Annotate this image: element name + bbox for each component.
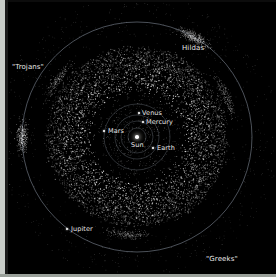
asteroid-point-inner-scatter bbox=[124, 135, 125, 136]
asteroid-point-main-belt bbox=[96, 59, 97, 60]
asteroid-point-main-belt bbox=[194, 67, 195, 68]
asteroid-point-outer-halo bbox=[12, 194, 13, 195]
asteroid-point-main-belt bbox=[174, 167, 175, 168]
asteroid-point-hildas bbox=[56, 88, 57, 89]
asteroid-point-main-belt bbox=[201, 190, 202, 191]
asteroid-point-outer-halo bbox=[75, 22, 76, 23]
asteroid-point-main-belt bbox=[158, 187, 159, 188]
asteroid-point-main-belt bbox=[148, 216, 149, 217]
asteroid-point-main-belt bbox=[90, 177, 91, 178]
asteroid-point-main-belt bbox=[71, 79, 72, 80]
asteroid-point-main-belt bbox=[129, 208, 130, 209]
asteroid-point-main-belt bbox=[104, 203, 105, 204]
asteroid-point-main-belt bbox=[91, 60, 92, 61]
asteroid-point-trojans bbox=[19, 140, 20, 141]
asteroid-point-outer-halo bbox=[231, 36, 232, 37]
label-venus: Venus bbox=[142, 110, 162, 117]
asteroid-point-hildas bbox=[214, 78, 215, 79]
asteroid-point-main-belt bbox=[82, 138, 83, 139]
asteroid-point-trojans bbox=[28, 132, 29, 133]
asteroid-point-main-belt bbox=[94, 180, 95, 181]
asteroid-point-main-belt bbox=[74, 189, 75, 190]
asteroid-point-main-belt bbox=[102, 207, 103, 208]
asteroid-point-trojans bbox=[18, 129, 19, 130]
asteroid-point-inner-scatter bbox=[99, 132, 100, 133]
asteroid-point-hildas bbox=[124, 238, 125, 239]
asteroid-point-hildas bbox=[136, 235, 137, 236]
asteroid-point-main-belt bbox=[173, 191, 174, 192]
asteroid-point-main-belt bbox=[206, 186, 207, 187]
asteroid-point-inner-scatter bbox=[115, 110, 116, 111]
asteroid-point-main-belt bbox=[69, 197, 70, 198]
asteroid-point-main-belt bbox=[49, 107, 50, 108]
asteroid-point-main-belt bbox=[197, 72, 198, 73]
asteroid-point-main-belt bbox=[165, 197, 166, 198]
asteroid-point-hildas bbox=[143, 236, 144, 237]
asteroid-point-main-belt bbox=[188, 195, 189, 196]
asteroid-point-outer-halo bbox=[166, 269, 167, 270]
asteroid-point-hildas bbox=[237, 120, 238, 121]
asteroid-point-main-belt bbox=[202, 170, 203, 171]
asteroid-point-main-belt bbox=[98, 85, 99, 86]
asteroid-point-main-belt bbox=[98, 198, 99, 199]
asteroid-point-main-belt bbox=[92, 185, 93, 186]
asteroid-point-trojans bbox=[22, 144, 23, 145]
asteroid-point-trojans bbox=[21, 124, 22, 125]
asteroid-point-outer-halo bbox=[243, 87, 244, 88]
asteroid-point-main-belt bbox=[188, 141, 189, 142]
asteroid-point-main-belt bbox=[215, 143, 216, 144]
asteroid-point-inner-scatter bbox=[121, 114, 122, 115]
asteroid-point-main-belt bbox=[146, 206, 147, 207]
asteroid-point-main-belt bbox=[54, 132, 55, 133]
asteroid-point-main-belt bbox=[176, 193, 177, 194]
asteroid-point-main-belt bbox=[169, 58, 170, 59]
asteroid-point-main-belt bbox=[168, 217, 169, 218]
asteroid-point-main-belt bbox=[183, 125, 184, 126]
asteroid-point-main-belt bbox=[162, 209, 163, 210]
asteroid-point-main-belt bbox=[191, 168, 192, 169]
asteroid-point-main-belt bbox=[74, 167, 75, 168]
asteroid-point-greeks bbox=[191, 37, 192, 38]
asteroid-point-main-belt bbox=[128, 196, 129, 197]
asteroid-point-main-belt bbox=[120, 188, 121, 189]
asteroid-point-outer-halo bbox=[188, 4, 189, 5]
asteroid-point-main-belt bbox=[169, 204, 170, 205]
asteroid-point-main-belt bbox=[213, 178, 214, 179]
asteroid-point-main-belt bbox=[190, 200, 191, 201]
asteroid-point-main-belt bbox=[84, 160, 85, 161]
asteroid-point-inner-scatter bbox=[145, 138, 146, 139]
asteroid-point-inner-scatter bbox=[169, 141, 170, 142]
asteroid-point-main-belt bbox=[76, 177, 77, 178]
asteroid-point-main-belt bbox=[178, 176, 179, 177]
asteroid-point-trojans bbox=[21, 134, 22, 135]
asteroid-point-outer-halo bbox=[35, 149, 36, 150]
asteroid-point-main-belt bbox=[92, 172, 93, 173]
asteroid-point-main-belt bbox=[55, 122, 56, 123]
asteroid-point-main-belt bbox=[54, 113, 55, 114]
asteroid-point-main-belt bbox=[211, 91, 212, 92]
asteroid-point-main-belt bbox=[67, 179, 68, 180]
asteroid-point-main-belt bbox=[203, 103, 204, 104]
asteroid-point-outer-halo bbox=[234, 189, 235, 190]
asteroid-point-main-belt bbox=[99, 105, 100, 106]
asteroid-point-main-belt bbox=[105, 201, 106, 202]
asteroid-point-main-belt bbox=[198, 117, 199, 118]
asteroid-point-main-belt bbox=[111, 53, 112, 54]
asteroid-point-main-belt bbox=[178, 66, 179, 67]
asteroid-point-main-belt bbox=[95, 164, 96, 165]
asteroid-point-main-belt bbox=[66, 110, 67, 111]
asteroid-point-main-belt bbox=[72, 198, 73, 199]
asteroid-point-main-belt bbox=[76, 194, 77, 195]
asteroid-point-inner-scatter bbox=[157, 107, 158, 108]
asteroid-point-greeks bbox=[180, 32, 181, 33]
asteroid-point-main-belt bbox=[193, 165, 194, 166]
asteroid-point-main-belt bbox=[208, 157, 209, 158]
asteroid-point-main-belt bbox=[56, 147, 57, 148]
asteroid-point-inner-scatter bbox=[144, 95, 145, 96]
asteroid-point-main-belt bbox=[183, 192, 184, 193]
asteroid-point-main-belt bbox=[173, 95, 174, 96]
asteroid-point-main-belt bbox=[224, 124, 225, 125]
asteroid-point-main-belt bbox=[175, 198, 176, 199]
asteroid-point-inner-scatter bbox=[127, 149, 128, 150]
asteroid-point-main-belt bbox=[213, 161, 214, 162]
